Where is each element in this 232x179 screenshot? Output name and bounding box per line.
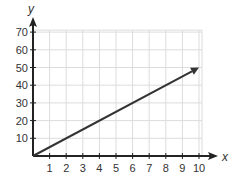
y-tick-label: 40 xyxy=(16,79,28,91)
y-tick-label: 20 xyxy=(16,115,28,127)
x-tick-label: 10 xyxy=(193,162,205,174)
x-tick-label: 1 xyxy=(47,162,53,174)
y-tick-label: 10 xyxy=(16,132,28,144)
x-tick-label: 5 xyxy=(113,162,119,174)
y-tick-label: 60 xyxy=(16,44,28,56)
x-tick-label: 6 xyxy=(130,162,136,174)
x-tick-label: 9 xyxy=(179,162,185,174)
y-axis-label: y xyxy=(27,2,35,16)
x-tick-label: 8 xyxy=(163,162,169,174)
series-line xyxy=(33,71,192,156)
x-tick-label: 7 xyxy=(146,162,152,174)
x-tick-label: 2 xyxy=(63,162,69,174)
y-tick-label: 30 xyxy=(16,97,28,109)
tick-labels: 1234567891010203040506070 xyxy=(16,26,205,174)
x-axis-label: x xyxy=(221,150,229,164)
y-tick-label: 50 xyxy=(16,62,28,74)
x-tick-label: 3 xyxy=(80,162,86,174)
grid-lines xyxy=(33,30,202,156)
y-tick-label: 70 xyxy=(16,26,28,38)
x-tick-label: 4 xyxy=(96,162,102,174)
line-chart: 1234567891010203040506070 x y xyxy=(0,0,232,179)
